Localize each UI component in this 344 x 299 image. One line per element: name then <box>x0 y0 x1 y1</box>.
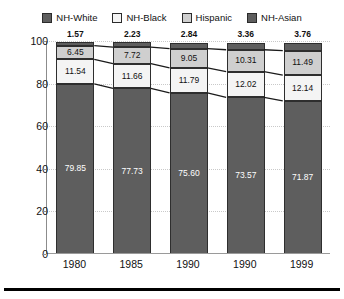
bottom-rule <box>4 288 340 291</box>
x-axis-line <box>47 253 330 254</box>
bar-segment[interactable] <box>56 42 94 45</box>
segment-value-label: 12.14 <box>292 84 313 93</box>
legend-item-nh-asian: NH-Asian <box>247 13 302 23</box>
connector-line <box>207 93 226 97</box>
connector-line <box>207 68 226 72</box>
segment-value-label: 10.31 <box>235 56 256 65</box>
bar-segment[interactable]: 7.72 <box>113 47 151 63</box>
y-tick-mark <box>42 126 46 127</box>
bar-segment[interactable]: 10.31 <box>227 50 265 72</box>
bar-group[interactable]: 71.8712.1411.493.76 <box>284 41 322 254</box>
legend-item-hispanic: Hispanic <box>182 13 232 23</box>
segment-value-label: 79.85 <box>65 164 86 173</box>
bar-group[interactable]: 73.5712.0210.313.36 <box>227 41 265 254</box>
connector-line <box>151 64 170 68</box>
connector-line <box>94 84 113 89</box>
legend-label-nh-white: NH-White <box>56 13 97 23</box>
y-tick-mark <box>42 169 46 170</box>
bar-segment[interactable]: 6.45 <box>56 46 94 60</box>
segment-value-label: 11.49 <box>292 58 313 67</box>
y-tick-mark <box>42 254 46 255</box>
chart-legend: NH-White NH-Black Hispanic NH-Asian <box>0 9 344 27</box>
connector-line <box>94 59 113 63</box>
legend-swatch-nh-asian <box>247 13 257 23</box>
bar-segment[interactable]: 9.05 <box>170 49 208 68</box>
y-tick-mark <box>42 41 46 42</box>
bar-segment[interactable] <box>170 43 208 49</box>
connector-line <box>94 46 113 48</box>
bar-segment[interactable]: 71.87 <box>284 101 322 254</box>
plot-inner: 79.8511.546.451.5777.7311.667.722.2375.6… <box>47 41 330 254</box>
bar-segment[interactable]: 77.73 <box>113 88 151 254</box>
y-tick-mark <box>42 211 46 212</box>
bar-segment[interactable] <box>284 43 322 51</box>
legend-swatch-nh-white <box>42 13 52 23</box>
bar-segment[interactable]: 11.79 <box>170 68 208 93</box>
x-tick-label: 1990 <box>215 259 275 270</box>
y-tick-mark <box>42 84 46 85</box>
bar-segment[interactable]: 11.66 <box>113 64 151 89</box>
bar-segment[interactable]: 11.54 <box>56 59 94 84</box>
nh-asian-value-label: 2.84 <box>181 30 198 39</box>
bar-segment[interactable]: 12.14 <box>284 75 322 101</box>
nh-asian-value-label: 3.76 <box>294 30 311 39</box>
connector-line <box>151 47 170 48</box>
legend-item-nh-black: NH-Black <box>112 13 166 23</box>
segment-value-label: 77.73 <box>122 167 143 176</box>
segment-value-label: 73.57 <box>235 171 256 180</box>
segment-value-label: 9.05 <box>181 54 198 63</box>
connector-line <box>264 72 283 75</box>
bar-group[interactable]: 77.7311.667.722.23 <box>113 41 151 254</box>
segment-value-label: 11.79 <box>179 76 200 85</box>
segment-value-label: 11.66 <box>122 72 143 81</box>
legend-label-nh-asian: NH-Asian <box>261 13 302 23</box>
connector-line <box>264 97 283 101</box>
bar-group[interactable]: 79.8511.546.451.57 <box>56 41 94 254</box>
bar-group[interactable]: 75.6011.799.052.84 <box>170 41 208 254</box>
bar-segment[interactable]: 11.49 <box>284 51 322 75</box>
connector-line <box>264 50 283 51</box>
plot-area: 79.8511.546.451.5777.7311.667.722.2375.6… <box>46 41 330 254</box>
bar-segment[interactable] <box>113 42 151 47</box>
x-tick-label: 1990 <box>158 259 218 270</box>
legend-swatch-nh-black <box>112 13 122 23</box>
nh-asian-value-label: 3.36 <box>238 30 255 39</box>
bar-segment[interactable]: 73.57 <box>227 97 265 254</box>
legend-label-hispanic: Hispanic <box>196 13 232 23</box>
segment-value-label: 7.72 <box>124 51 141 60</box>
x-tick-label: 1985 <box>101 259 161 270</box>
x-tick-label: 1980 <box>44 259 104 270</box>
nh-asian-value-label: 2.23 <box>124 30 141 39</box>
legend-swatch-hispanic <box>182 13 192 23</box>
legend-label-nh-black: NH-Black <box>126 13 166 23</box>
bar-segment[interactable]: 79.85 <box>56 84 94 254</box>
x-tick-label: 1999 <box>272 259 332 270</box>
bar-segment[interactable]: 75.60 <box>170 93 208 254</box>
segment-value-label: 6.45 <box>67 48 84 57</box>
segment-value-label: 75.60 <box>178 169 199 178</box>
connector-line <box>207 49 226 50</box>
legend-item-nh-white: NH-White <box>42 13 97 23</box>
bar-segment[interactable]: 12.02 <box>227 72 265 98</box>
connector-line <box>151 88 170 93</box>
segment-value-label: 12.02 <box>235 80 256 89</box>
bar-segment[interactable] <box>227 43 265 50</box>
segment-value-label: 11.54 <box>65 67 86 76</box>
segment-value-label: 71.87 <box>292 173 313 182</box>
nh-asian-value-label: 1.57 <box>67 30 84 39</box>
